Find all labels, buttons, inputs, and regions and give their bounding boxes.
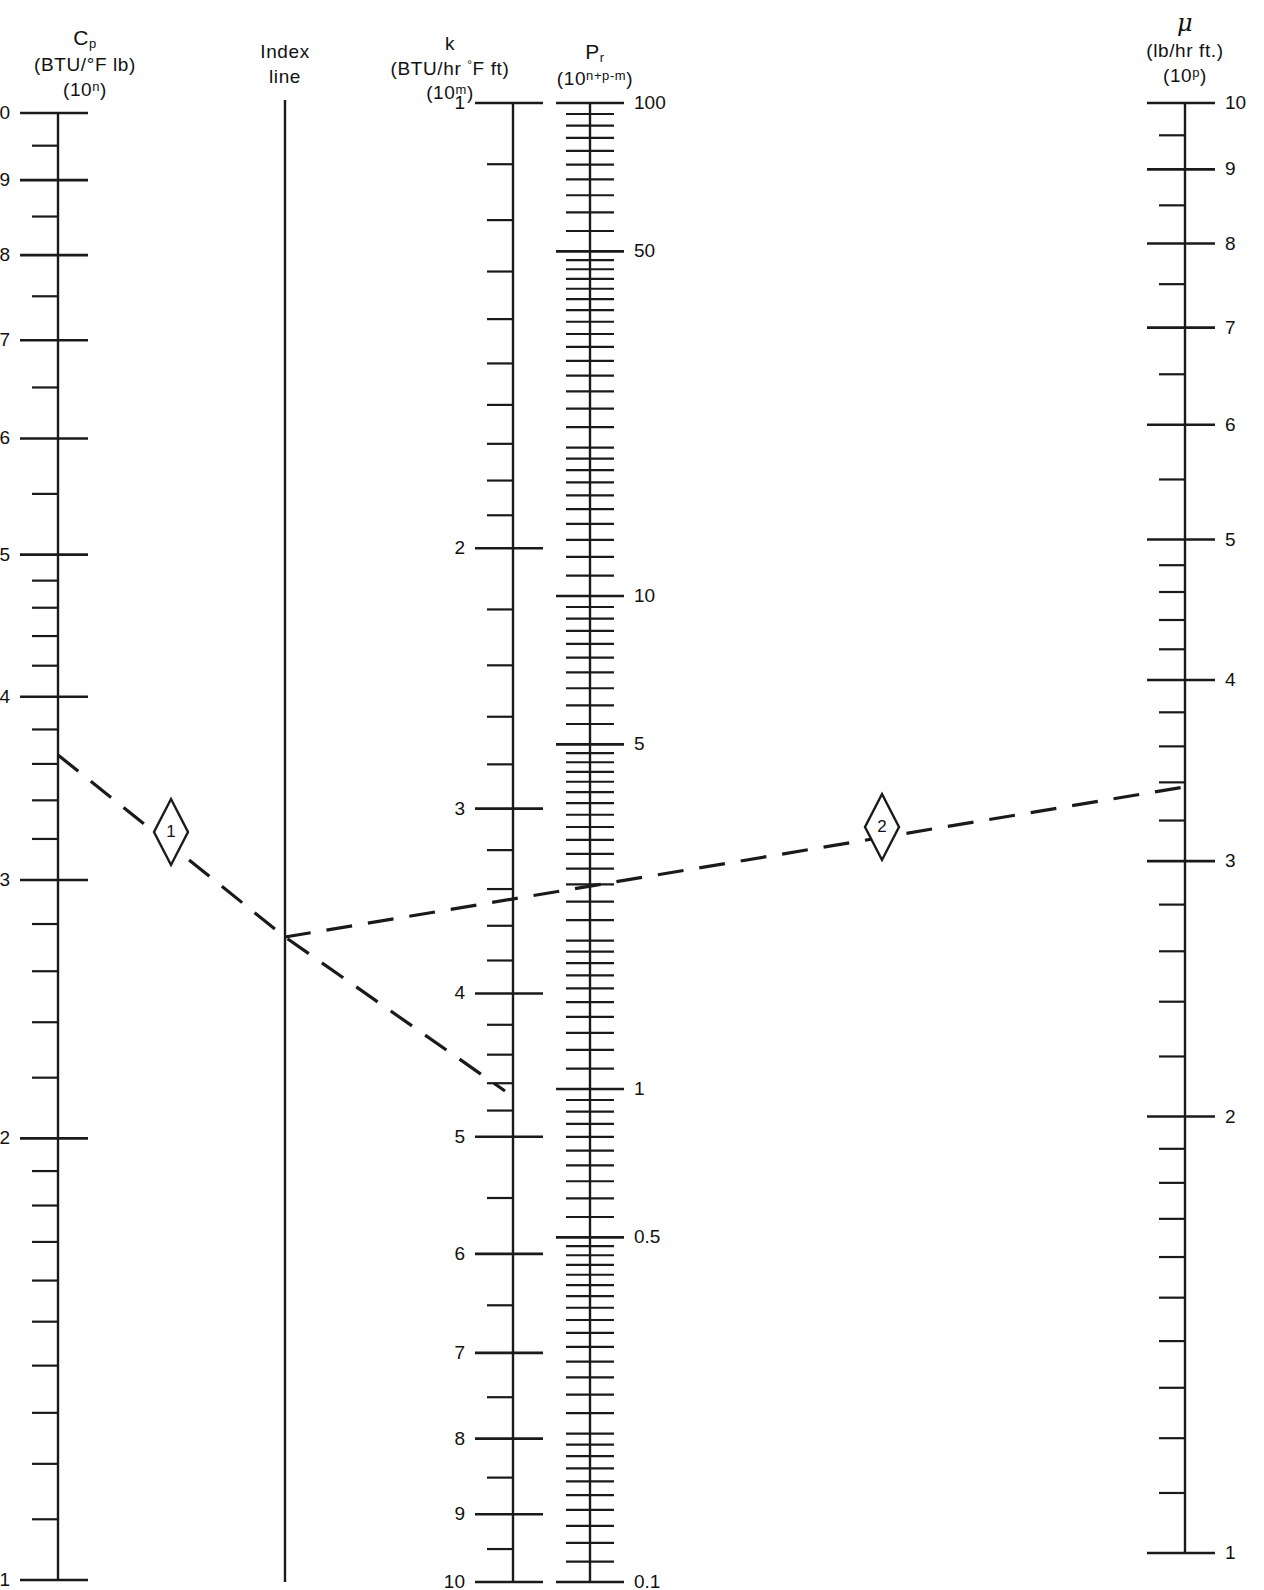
tick-label-cp: 4 — [0, 686, 10, 707]
tick-label-k: 9 — [454, 1503, 465, 1524]
tick-label-k: 8 — [454, 1428, 465, 1449]
tick-label-k: 5 — [454, 1126, 465, 1147]
tick-label-mu: 4 — [1225, 669, 1236, 690]
tick-label-cp: 10 — [0, 102, 10, 123]
marker-label: 1 — [166, 822, 175, 841]
construction-line-1 — [58, 755, 505, 1091]
nomogram-canvas: 10987654321123456789101005010510.50.1109… — [0, 0, 1264, 1590]
tick-label-cp: 3 — [0, 869, 10, 890]
tick-label-k: 6 — [454, 1243, 465, 1264]
tick-label-mu: 1 — [1225, 1542, 1236, 1563]
tick-label-pr: 1 — [634, 1078, 645, 1099]
tick-label-k: 2 — [454, 537, 465, 558]
scales-layer: 10987654321123456789101005010510.50.1109… — [0, 92, 1246, 1590]
scale-pr: 1005010510.50.1 — [556, 92, 666, 1590]
tick-label-k: 3 — [454, 798, 465, 819]
tick-label-mu: 6 — [1225, 414, 1236, 435]
tick-label-pr: 0.1 — [634, 1571, 660, 1590]
nomogram-figure: Cp (BTU/°F lb) (10n) Index line k (BTU/h… — [0, 0, 1264, 1590]
construction-lines-layer — [58, 755, 1190, 1091]
tick-label-cp: 6 — [0, 427, 10, 448]
scale-k: 12345678910 — [444, 92, 543, 1590]
tick-label-mu: 8 — [1225, 233, 1236, 254]
tick-label-mu: 3 — [1225, 850, 1236, 871]
scale-mu: 10987654321 — [1147, 92, 1246, 1563]
tick-label-k: 1 — [454, 92, 465, 113]
tick-label-mu: 9 — [1225, 158, 1236, 179]
tick-label-mu: 2 — [1225, 1106, 1236, 1127]
tick-label-pr: 5 — [634, 733, 645, 754]
scale-cp: 10987654321 — [0, 102, 88, 1590]
tick-label-pr: 10 — [634, 585, 655, 606]
tick-label-cp: 7 — [0, 329, 10, 350]
tick-label-pr: 0.5 — [634, 1226, 660, 1247]
tick-label-mu: 5 — [1225, 529, 1236, 550]
tick-label-cp: 1 — [0, 1569, 10, 1590]
marker-label: 2 — [877, 817, 886, 836]
tick-label-mu: 10 — [1225, 92, 1246, 113]
marker-diamond-1: 1 — [154, 799, 188, 865]
tick-label-k: 4 — [454, 982, 465, 1003]
tick-label-mu: 7 — [1225, 317, 1236, 338]
marker-diamond-2: 2 — [865, 794, 899, 860]
tick-label-pr: 100 — [634, 92, 666, 113]
tick-label-k: 10 — [444, 1571, 465, 1590]
construction-line-2 — [285, 786, 1190, 937]
tick-label-pr: 50 — [634, 240, 655, 261]
tick-label-k: 7 — [454, 1342, 465, 1363]
tick-label-cp: 5 — [0, 544, 10, 565]
tick-label-cp: 2 — [0, 1127, 10, 1148]
tick-label-cp: 9 — [0, 169, 10, 190]
tick-label-cp: 8 — [0, 244, 10, 265]
